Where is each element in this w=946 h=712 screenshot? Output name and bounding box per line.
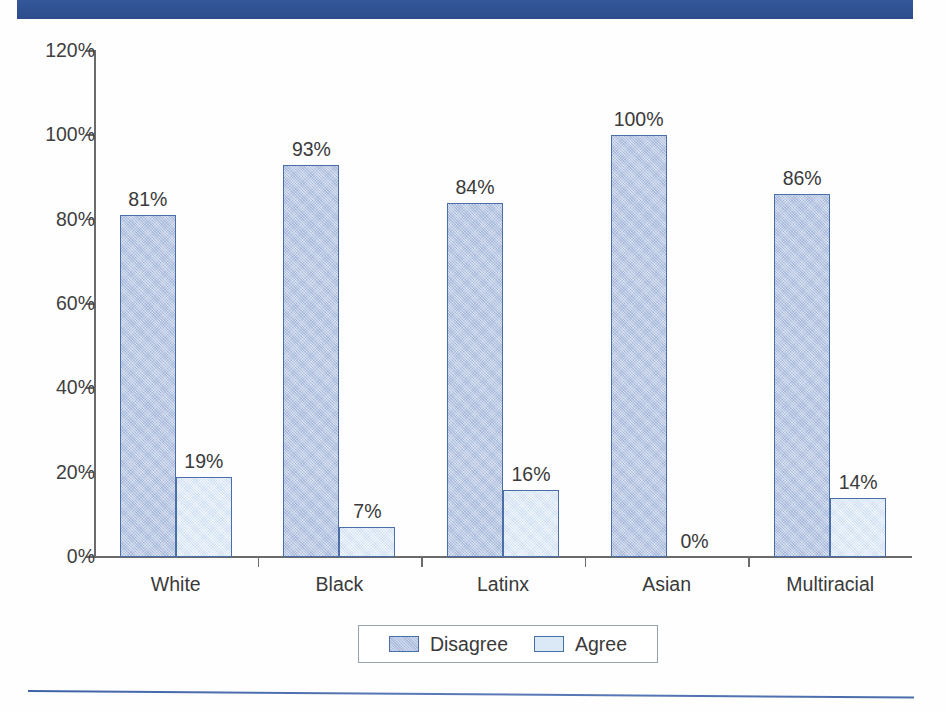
legend-label: Agree (575, 633, 627, 656)
y-axis-tick-label: 0% (27, 545, 95, 568)
category-label: Multiracial (786, 573, 874, 596)
legend-label: Disagree (430, 633, 508, 656)
bar-agree[interactable] (830, 498, 886, 557)
category-label: White (151, 573, 201, 596)
bar-chart: 0%20%40%60%80%100%120% 81%19%93%7%84%16%… (0, 19, 946, 669)
chart-legend: DisagreeAgree (358, 625, 658, 663)
bar-disagree[interactable] (447, 203, 503, 557)
bar-value-label: 86% (783, 167, 822, 190)
bar-value-label: 19% (184, 450, 223, 473)
x-axis-tick (585, 557, 587, 567)
category-label: Black (316, 573, 364, 596)
bar-agree[interactable] (503, 490, 559, 557)
legend-swatch-disagree (389, 636, 419, 652)
bar-disagree[interactable] (283, 165, 339, 557)
bar-value-label: 100% (614, 108, 664, 131)
bar-disagree[interactable] (774, 194, 830, 557)
bar-value-label: 93% (292, 138, 331, 161)
bar-disagree[interactable] (611, 135, 667, 557)
bar-agree[interactable] (339, 527, 395, 557)
bar-disagree[interactable] (120, 215, 176, 557)
chart-title-bar (17, 0, 913, 19)
bar-value-label: 81% (128, 188, 167, 211)
x-axis-tick (258, 557, 260, 567)
bar-value-label: 16% (511, 463, 550, 486)
category-label: Asian (642, 573, 691, 596)
legend-swatch-agree (534, 636, 564, 652)
bar-value-label: 84% (455, 176, 494, 199)
y-axis-tick-label: 80% (27, 207, 95, 230)
footer-rule (28, 690, 914, 698)
y-axis-tick-label: 40% (27, 376, 95, 399)
bar-agree[interactable] (176, 477, 232, 557)
y-axis-tick-label: 100% (27, 123, 95, 146)
x-axis-tick (421, 557, 423, 567)
bar-value-label: 14% (839, 471, 878, 494)
y-axis-tick-label: 20% (27, 460, 95, 483)
scanned-page: 0%20%40%60%80%100%120% 81%19%93%7%84%16%… (0, 0, 946, 712)
legend-entry[interactable]: Disagree (389, 633, 508, 656)
category-label: Latinx (477, 573, 529, 596)
y-axis-tick-label: 60% (27, 292, 95, 315)
bar-value-label: 7% (353, 500, 381, 523)
bar-value-label: 0% (681, 530, 709, 553)
y-axis-tick-label: 120% (27, 39, 95, 62)
legend-entry[interactable]: Agree (534, 633, 627, 656)
x-axis-tick (748, 557, 750, 567)
